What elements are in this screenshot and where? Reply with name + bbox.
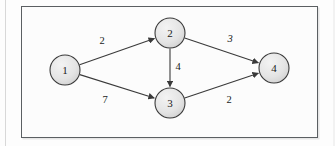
graph-node-label-2: 2 [167,28,173,39]
graph-node-label-4: 4 [271,63,277,74]
edge-weight-2-to-4: 3 [227,34,232,45]
edge-weight-1-to-3: 7 [102,95,107,106]
graph-edge-2-to-4 [185,38,259,63]
graph-canvas [0,0,335,146]
edge-weight-2-to-3: 4 [175,62,180,73]
edge-weight-3-to-4: 2 [226,95,231,106]
graph-node-label-1: 1 [62,65,68,76]
graph-edge-3-to-4 [185,73,259,98]
graph-edge-1-to-2 [80,38,155,64]
graph-edge-1-to-3 [80,75,154,98]
graph-node-label-3: 3 [167,98,173,109]
edge-weight-1-to-2: 2 [99,36,104,47]
figure-page: 1234 27432 [0,0,335,146]
